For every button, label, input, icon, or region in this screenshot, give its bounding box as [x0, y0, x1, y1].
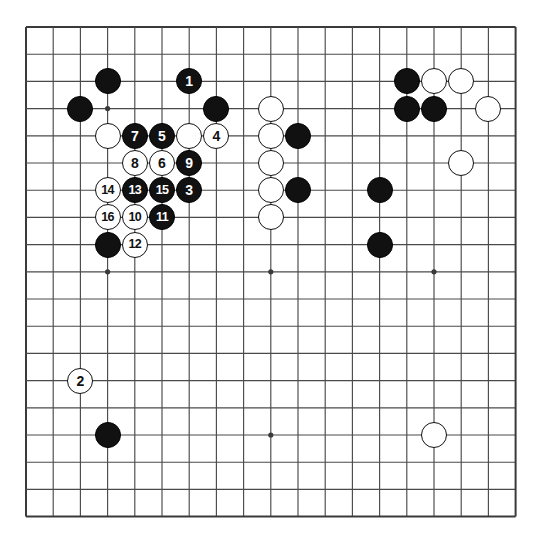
stone[interactable] [394, 68, 420, 94]
stone[interactable] [95, 422, 121, 448]
stone-move-number: 7 [131, 128, 139, 142]
stone[interactable] [67, 96, 93, 122]
stone[interactable] [285, 177, 311, 203]
stone-move-number: 8 [131, 156, 139, 170]
star-point [431, 269, 436, 274]
stone-move-number: 10 [129, 211, 142, 224]
stone-move-number: 11 [156, 211, 168, 224]
stone-move-number: 1 [185, 74, 193, 88]
numbered-stone[interactable]: 4 [203, 123, 229, 149]
stone-move-number: 14 [101, 183, 114, 196]
stone[interactable] [394, 96, 420, 122]
numbered-stone[interactable]: 14 [95, 177, 121, 203]
numbered-stone[interactable]: 16 [95, 204, 121, 230]
star-point [268, 269, 273, 274]
stone-move-number: 13 [129, 183, 142, 196]
stone[interactable] [367, 232, 393, 258]
numbered-stone[interactable]: 10 [122, 204, 148, 230]
numbered-stone[interactable]: 9 [176, 150, 202, 176]
stone-move-number: 6 [158, 156, 166, 170]
stone-move-number: 9 [185, 156, 193, 170]
stone[interactable] [95, 232, 121, 258]
stone[interactable] [448, 150, 474, 176]
numbered-stone[interactable]: 5 [149, 123, 175, 149]
stone[interactable] [258, 96, 284, 122]
star-point [105, 106, 110, 111]
stone[interactable] [258, 150, 284, 176]
stone[interactable] [421, 422, 447, 448]
stone-move-number: 3 [185, 183, 193, 197]
stone-move-number: 15 [156, 183, 169, 196]
stone[interactable] [176, 123, 202, 149]
stone[interactable] [95, 123, 121, 149]
numbered-stone[interactable]: 8 [122, 150, 148, 176]
stone-move-number: 2 [76, 373, 84, 387]
stone[interactable] [421, 96, 447, 122]
numbered-stone[interactable]: 13 [122, 177, 148, 203]
stone-move-number: 16 [101, 211, 114, 224]
go-board-diagram: 17548691413153161011122 [0, 0, 539, 551]
numbered-stone[interactable]: 2 [67, 368, 93, 394]
star-point [268, 432, 273, 437]
stone[interactable] [258, 204, 284, 230]
stone[interactable] [95, 68, 121, 94]
star-point [105, 269, 110, 274]
stone-move-number: 12 [129, 238, 142, 251]
numbered-stone[interactable]: 15 [149, 177, 175, 203]
stone-move-number: 5 [158, 128, 166, 142]
stone[interactable] [285, 123, 311, 149]
stone[interactable] [475, 96, 501, 122]
stone-move-number: 4 [212, 128, 220, 142]
stone[interactable] [367, 177, 393, 203]
stone[interactable] [258, 123, 284, 149]
stone[interactable] [258, 177, 284, 203]
stone[interactable] [203, 96, 229, 122]
numbered-stone[interactable]: 7 [122, 123, 148, 149]
numbered-stone[interactable]: 12 [122, 232, 148, 258]
numbered-stone[interactable]: 6 [149, 150, 175, 176]
